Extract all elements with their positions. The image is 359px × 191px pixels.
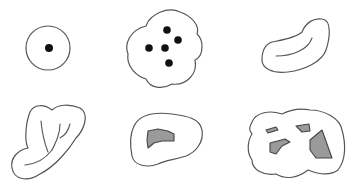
shape-diagram (0, 0, 359, 191)
tube-outline (262, 19, 329, 73)
dot (174, 36, 182, 44)
panel-circle-single-dot (26, 26, 70, 70)
dot (165, 59, 173, 67)
panel-lobed-blob-five-dots (127, 10, 202, 87)
panel-annulus-one-hole (131, 113, 203, 166)
panel-blob-multiple-holes (248, 109, 344, 177)
twisted-outline (12, 105, 86, 179)
dot (45, 44, 53, 52)
panel-twisted-tube (12, 105, 86, 179)
dot (145, 44, 153, 52)
dot (163, 26, 171, 34)
blob-outline (248, 109, 344, 177)
dot (161, 44, 169, 52)
panel-curved-tube (262, 19, 329, 73)
